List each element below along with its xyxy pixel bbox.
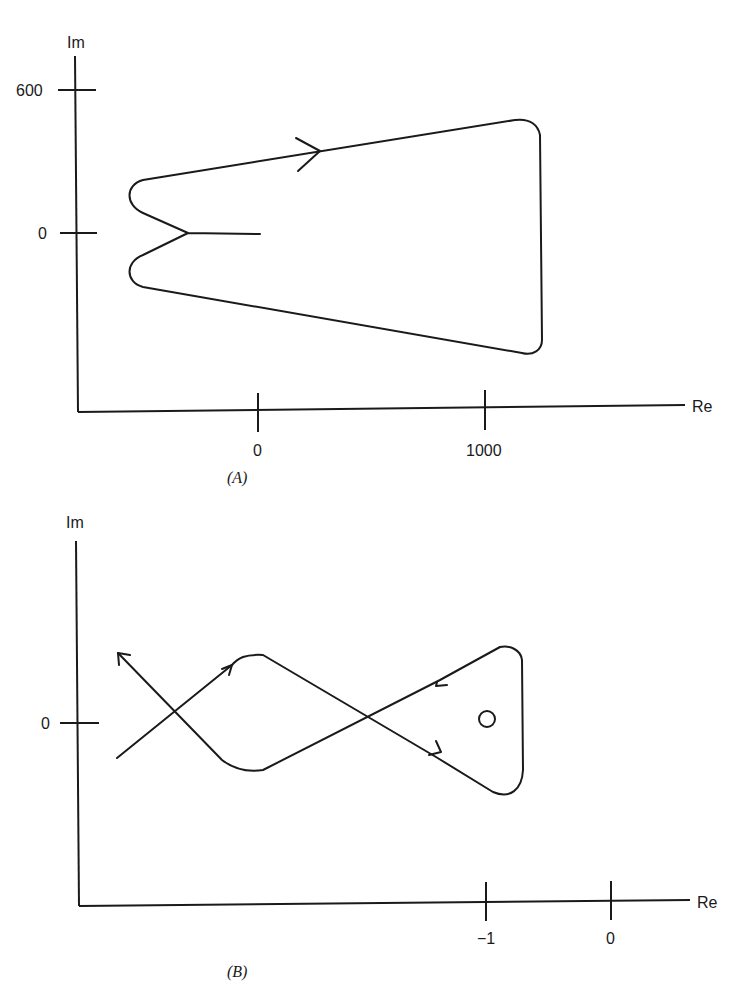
nyquist-figure: Im Re 600 0 0 1000 (A) Im Re 0 −1 0 (B) [0,0,746,1006]
y-tick-label-600: 600 [16,82,43,99]
im-axis-label: Im [66,514,84,531]
re-axis [78,405,685,412]
x-tick-label-0: 0 [606,930,615,947]
y-tick-label-0: 0 [41,715,50,732]
re-axis-label: Re [692,398,713,415]
plot-b: Im Re 0 −1 0 (B) [41,514,718,981]
nyquist-locus [117,647,523,795]
plot-a: Im Re 600 0 0 1000 (A) [16,34,713,487]
re-axis-label: Re [697,894,718,911]
im-axis-label: Im [67,34,85,51]
x-tick-label-0: 0 [253,442,262,459]
arrow-head-icon [436,682,447,686]
x-tick-label-minus-1: −1 [477,930,495,947]
contour-curve [130,120,543,354]
caption-a: (A) [227,469,247,487]
caption-b: (B) [227,963,247,981]
y-tick-label-0: 0 [38,225,47,242]
circle-marker-icon [479,711,495,727]
re-axis [79,900,690,906]
x-tick-label-1000: 1000 [466,442,502,459]
